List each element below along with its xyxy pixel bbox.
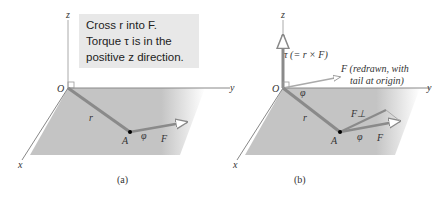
phi-label-b-origin: φ <box>300 87 306 98</box>
phi-label-a: φ <box>141 130 147 141</box>
tau-label-b: τ (= r × F) <box>284 49 328 61</box>
origin-label-b: O <box>272 83 279 94</box>
x-label-b: x <box>232 159 238 170</box>
callout-box: Cross r into F. Torque τ is in the posit… <box>79 14 199 68</box>
z-label-b: z <box>280 9 285 20</box>
F-redrawn-vector-b <box>283 77 340 88</box>
F-redrawn-label-line1: F (redrawn, with <box>340 63 409 75</box>
F-label-a: F <box>160 133 168 144</box>
point-A-b <box>338 130 342 134</box>
F-redrawn-label-line2: tail at origin) <box>350 75 405 87</box>
z-label-a: z <box>65 9 70 20</box>
callout-line-3: positive z direction. <box>86 49 199 65</box>
r-label-b: r <box>303 112 307 123</box>
callout-line-1: Cross r into F. <box>86 17 199 33</box>
y-label-a: y <box>229 82 235 93</box>
caption-b: (b) <box>294 174 306 186</box>
r-label-a: r <box>89 112 93 123</box>
callout-line-2: Torque τ is in the <box>86 33 199 49</box>
torque-diagram: z y x O A r F φ (a) z y x O A r F F⊥ φ φ… <box>0 0 446 198</box>
point-A-a <box>128 130 132 134</box>
F-perp-label-b: F⊥ <box>350 108 366 119</box>
point-label-a: A <box>121 135 129 146</box>
y-label-b: y <box>426 82 432 93</box>
F-label-b: F <box>376 132 384 143</box>
point-label-b: A <box>330 135 338 146</box>
caption-a: (a) <box>117 174 128 186</box>
phi-label-b-A: φ <box>357 131 363 142</box>
x-label-a: x <box>17 159 23 170</box>
origin-label-a: O <box>57 83 64 94</box>
